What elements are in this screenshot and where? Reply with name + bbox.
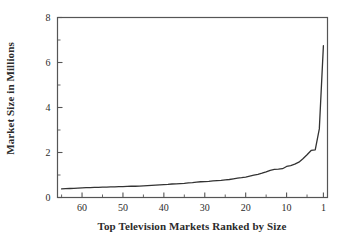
line-chart-plot: 605040302010102468 [0,0,347,245]
svg-text:50: 50 [118,202,128,213]
svg-text:4: 4 [46,102,51,113]
svg-text:2: 2 [46,147,51,158]
svg-text:60: 60 [77,202,87,213]
svg-text:30: 30 [200,202,210,213]
axis-ticks [58,18,324,198]
chart-figure: Market Size in Millions Top Television M… [0,0,347,245]
svg-text:10: 10 [282,202,292,213]
svg-text:6: 6 [46,57,51,68]
data-series-group [62,46,324,189]
svg-text:20: 20 [241,202,251,213]
axes-frame [58,18,328,198]
svg-text:8: 8 [46,12,51,23]
axis-tick-labels: 605040302010102468 [46,12,326,213]
svg-text:1: 1 [321,202,326,213]
svg-text:0: 0 [46,192,51,203]
svg-text:40: 40 [159,202,169,213]
